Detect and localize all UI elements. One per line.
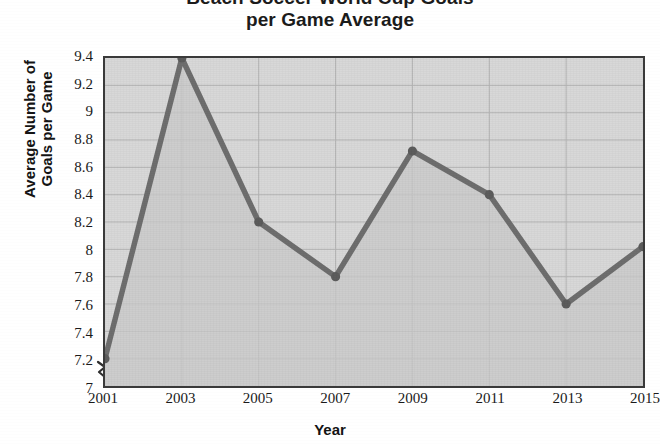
plot-canvas [105, 58, 643, 386]
data-point-marker [562, 299, 571, 308]
y-axis-tick-label: 9 [47, 103, 93, 120]
data-point-marker [254, 217, 263, 226]
y-axis-tick-label: 8 [47, 241, 93, 258]
x-axis-tick-label: 2009 [398, 390, 428, 407]
y-axis-tick-label: 7.4 [47, 324, 93, 341]
y-axis-tick-label: 8.4 [47, 186, 93, 203]
x-axis-tick-label: 2007 [320, 390, 350, 407]
y-axis-tick-label: 9.4 [47, 48, 93, 65]
data-point-marker [485, 190, 494, 199]
chart-title: Beach Soccer World Cup Goals per Game Av… [0, 0, 660, 31]
y-axis-tick-label: 7.6 [47, 297, 93, 314]
x-axis-tick-label: 2013 [553, 390, 583, 407]
y-axis-tick-label: 8.6 [47, 158, 93, 175]
y-axis-tick-labels: 9.49.298.88.68.48.287.87.67.47.27 [47, 0, 93, 444]
y-axis-tick-label: 9.2 [47, 75, 93, 92]
x-axis-tick-label: 2015 [630, 390, 660, 407]
y-axis-tick-label: 7 [47, 380, 93, 397]
y-axis-tick-label: 8.2 [47, 214, 93, 231]
data-point-marker [408, 146, 417, 155]
x-axis-tick-label: 2003 [165, 390, 195, 407]
y-axis-tick-label: 8.8 [47, 131, 93, 148]
data-point-marker [331, 272, 340, 281]
plot-area [103, 56, 645, 388]
x-axis-tick-label: 2011 [475, 390, 504, 407]
y-axis-tick-label: 7.2 [47, 352, 93, 369]
x-axis-tick-label: 2001 [88, 390, 118, 407]
line-chart: Beach Soccer World Cup Goals per Game Av… [0, 0, 660, 444]
x-axis-tick-label: 2005 [243, 390, 273, 407]
y-axis-tick-label: 7.8 [47, 269, 93, 286]
x-axis-title: Year [0, 421, 660, 438]
